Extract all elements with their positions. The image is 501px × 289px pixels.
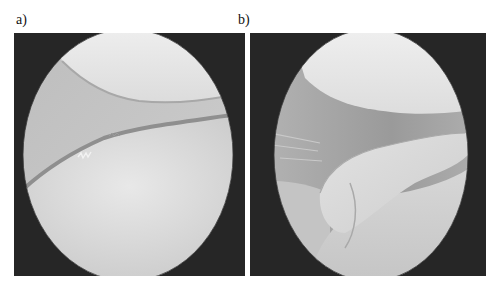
panel-a-arthroscopy-image	[14, 33, 245, 276]
arthroscopy-view-b	[250, 33, 486, 276]
panel-b-arthroscopy-image	[250, 33, 486, 276]
arthroscopy-view-a	[14, 33, 245, 276]
panel-a-label: a)	[16, 13, 27, 27]
panel-b-label: b)	[238, 13, 250, 27]
